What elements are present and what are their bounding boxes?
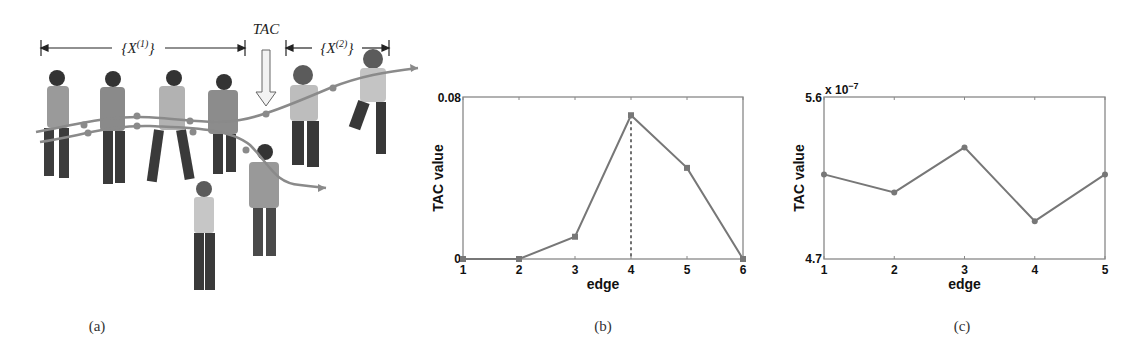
data-point-dot xyxy=(1102,171,1108,177)
plot-frame xyxy=(824,97,1105,259)
y-tick-label-min: 4.7 xyxy=(805,252,822,266)
series-line xyxy=(824,147,1105,221)
caption-c: (c) xyxy=(954,318,971,335)
tac-chart-b: 12345600.08edgeTAC value xyxy=(420,0,760,300)
caption-a: (a) xyxy=(89,318,106,335)
x-tick-label: 2 xyxy=(891,263,898,277)
data-point-dot xyxy=(891,189,897,195)
data-point-square xyxy=(516,256,522,262)
x-tick-label: 5 xyxy=(1102,263,1109,277)
x-tick-label: 5 xyxy=(684,263,691,277)
segment-x1-label: {X(1)} xyxy=(122,38,155,56)
y-axis-label: TAC value xyxy=(791,144,807,212)
data-point-square xyxy=(684,165,690,171)
x-tick-label: 4 xyxy=(1031,263,1038,277)
panel-a-illustration: {X(1)} {X(2)} TAC xyxy=(0,0,430,300)
tac-label: TAC xyxy=(253,21,280,37)
segment-x2-label: {X(2)} xyxy=(321,38,354,56)
y-tick-label-max: 0.08 xyxy=(438,91,462,105)
x-axis-label: edge xyxy=(948,276,981,292)
x-tick-label: 3 xyxy=(961,263,968,277)
x-tick-label: 3 xyxy=(572,263,579,277)
x-axis-label: edge xyxy=(587,276,620,292)
y-scale-exponent: x 10−7 xyxy=(825,81,859,97)
data-point-square xyxy=(460,256,466,262)
y-tick-label-max: 5.6 xyxy=(805,91,822,105)
series-line xyxy=(463,115,743,259)
panel-c-chart: 123454.75.6edgeTAC valuex 10−7 xyxy=(770,0,1139,300)
y-axis-label: TAC value xyxy=(430,144,446,212)
x-tick-label: 4 xyxy=(628,263,635,277)
data-point-square xyxy=(628,112,634,118)
data-point-square xyxy=(572,234,578,240)
data-point-square xyxy=(740,256,746,262)
trajectory-lower-arrowhead-icon xyxy=(318,184,326,192)
x-tick-label: 2 xyxy=(516,263,523,277)
data-point-dot xyxy=(962,144,968,150)
data-point-dot xyxy=(1032,218,1038,224)
caption-b: (b) xyxy=(594,318,612,335)
tac-arrow-icon xyxy=(256,50,276,106)
pedestrian-sequence-figure: {X(1)} {X(2)} TAC xyxy=(0,0,430,300)
data-point-dot xyxy=(821,171,827,177)
tac-chart-c: 123454.75.6edgeTAC valuex 10−7 xyxy=(770,0,1139,300)
panel-b-chart: 12345600.08edgeTAC value xyxy=(420,0,760,300)
x-tick-label: 6 xyxy=(740,263,747,277)
trajectory-upper-arrowhead-icon xyxy=(410,64,418,72)
